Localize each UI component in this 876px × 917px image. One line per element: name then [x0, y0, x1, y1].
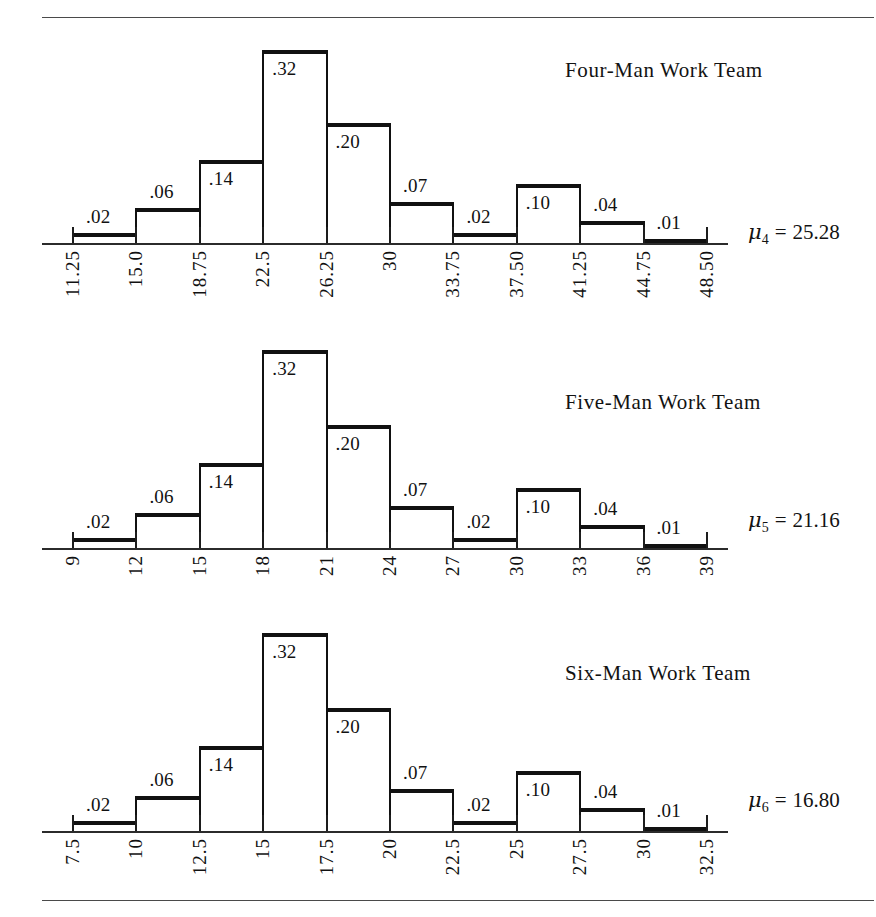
figure-page: Four-Man Work Team μ4=25.28 .02.06.14.32…: [0, 0, 876, 917]
bar-value-label: .01: [657, 801, 681, 820]
top-horizontal-rule: [42, 17, 874, 18]
x-tick-label: 7.5: [62, 838, 84, 865]
x-axis-tick: [135, 815, 137, 831]
bar-value-label: .14: [209, 472, 233, 491]
x-tick-label: 22.5: [442, 838, 464, 875]
histogram-bar: [579, 221, 644, 245]
bar-value-label: .32: [272, 642, 296, 661]
x-tick-label: 41.25: [569, 250, 591, 298]
x-axis-tick: [199, 532, 201, 548]
x-axis-tick: [389, 227, 391, 243]
bar-value-label: .04: [593, 782, 617, 801]
x-axis-tick: [262, 227, 264, 243]
bar-value-label: .02: [466, 512, 490, 531]
histogram-bar: [135, 513, 200, 551]
bar-value-label: .07: [403, 763, 427, 782]
mu-symbol: μ: [748, 788, 762, 812]
x-axis-tick: [389, 815, 391, 831]
bar-value-label: .10: [526, 780, 550, 799]
x-tick-label: 25: [506, 838, 528, 859]
bar-value-label: .01: [657, 518, 681, 537]
mean-annotation-six-man: μ6=16.80: [748, 788, 840, 816]
chart-panel-four-man: Four-Man Work Team μ4=25.28 .02.06.14.32…: [0, 30, 876, 320]
x-axis-tick: [326, 815, 328, 831]
bar-value-label: .02: [86, 207, 110, 226]
bar-value-label: .06: [149, 487, 173, 506]
bar-value-label: .10: [526, 193, 550, 212]
x-tick-label: 24: [379, 555, 401, 576]
x-tick-label: 30: [633, 838, 655, 859]
x-axis-tick: [706, 815, 708, 831]
x-tick-label: 27.5: [569, 838, 591, 875]
mu-subscript: 4: [762, 232, 769, 247]
histogram-bar: [262, 633, 327, 833]
bar-value-label: .07: [403, 176, 427, 195]
x-axis-tick: [199, 227, 201, 243]
x-axis-line-five-man: [42, 548, 728, 550]
mean-annotation-four-man: μ4=25.28: [748, 220, 840, 248]
bar-value-label: .02: [86, 795, 110, 814]
bar-value-label: .04: [593, 499, 617, 518]
x-axis-line-six-man: [42, 831, 728, 833]
mu-subscript: 5: [762, 520, 769, 535]
x-tick-label: 27: [442, 555, 464, 576]
histogram-bar: [262, 50, 327, 245]
bar-value-label: .32: [272, 359, 296, 378]
x-axis-tick: [579, 227, 581, 243]
chart-panel-six-man: Six-Man Work Team μ6=16.80 .02.06.14.32.…: [0, 613, 876, 898]
equals-sign: =: [769, 788, 793, 812]
histogram-bar: [389, 789, 454, 833]
x-tick-label: 20: [379, 838, 401, 859]
bar-value-label: .04: [593, 195, 617, 214]
mu-subscript: 6: [762, 800, 769, 815]
histogram-bar: [262, 350, 327, 550]
x-tick-label: 39: [696, 555, 718, 576]
bottom-horizontal-rule: [42, 900, 874, 901]
x-tick-label: 26.25: [316, 250, 338, 298]
x-tick-label: 30: [379, 250, 401, 271]
x-axis-tick: [389, 532, 391, 548]
x-axis-tick: [135, 227, 137, 243]
x-axis-tick: [579, 532, 581, 548]
histogram-bar: [135, 796, 200, 834]
x-tick-label: 18: [252, 555, 274, 576]
x-tick-label: 21: [316, 555, 338, 576]
x-tick-label: 48.50: [696, 250, 718, 298]
bar-value-label: .02: [466, 207, 490, 226]
x-tick-label: 37.50: [506, 250, 528, 298]
x-axis-tick: [516, 532, 518, 548]
x-tick-label: 17.5: [316, 838, 338, 875]
x-axis-tick: [706, 532, 708, 548]
bar-value-label: .20: [336, 132, 360, 151]
x-axis-tick: [72, 815, 74, 831]
x-axis-tick: [643, 815, 645, 831]
x-axis-tick: [135, 532, 137, 548]
x-axis-tick: [452, 815, 454, 831]
equals-sign: =: [769, 220, 793, 244]
x-axis-tick: [643, 227, 645, 243]
mean-value: 16.80: [793, 788, 840, 812]
x-tick-label: 44.75: [633, 250, 655, 298]
histogram-bar: [579, 808, 644, 833]
x-tick-label: 15: [252, 838, 274, 859]
bar-value-label: .14: [209, 169, 233, 188]
bar-value-label: .02: [86, 512, 110, 531]
x-tick-label: 36: [633, 555, 655, 576]
bar-value-label: .07: [403, 480, 427, 499]
histogram-bar: [135, 208, 200, 245]
histogram-bar: [389, 202, 454, 245]
x-axis-tick: [579, 815, 581, 831]
bar-value-label: .20: [336, 717, 360, 736]
histogram-bar: [579, 525, 644, 550]
bar-value-label: .20: [336, 434, 360, 453]
plot-area-six-man: .02.06.14.32.20.07.02.10.04.01 7.51012.5…: [42, 613, 742, 833]
x-tick-label: 12.5: [189, 838, 211, 875]
x-tick-label: 32.5: [696, 838, 718, 875]
bar-value-label: .02: [466, 795, 490, 814]
plot-area-five-man: .02.06.14.32.20.07.02.10.04.01 912151821…: [42, 330, 742, 550]
x-axis-tick: [452, 532, 454, 548]
x-tick-label: 33.75: [442, 250, 464, 298]
x-tick-label: 33: [569, 555, 591, 576]
bar-value-label: .06: [149, 182, 173, 201]
x-axis-tick: [706, 227, 708, 243]
